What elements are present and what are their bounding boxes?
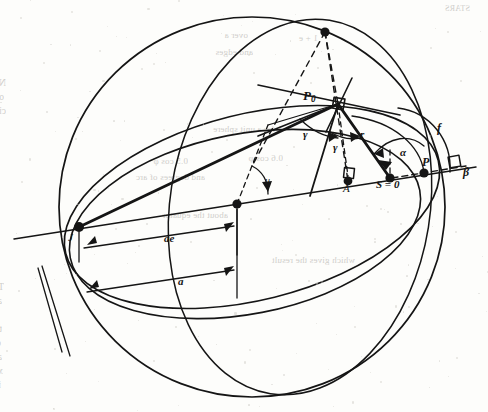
figure-label-J: J bbox=[68, 231, 73, 243]
scan-speck bbox=[248, 404, 249, 405]
scan-speck bbox=[113, 120, 115, 122]
scan-speck bbox=[308, 280, 309, 281]
label-text: β bbox=[463, 165, 469, 179]
scan-speck bbox=[102, 80, 104, 82]
scan-speck bbox=[374, 241, 376, 243]
label-text: a bbox=[178, 275, 184, 287]
figure-label-r: r bbox=[360, 128, 364, 140]
scan-speck bbox=[156, 53, 157, 54]
scan-speck bbox=[158, 192, 159, 193]
scan-speck bbox=[317, 67, 319, 69]
figure-label-P0: P0 bbox=[303, 88, 316, 104]
scan-speck bbox=[248, 54, 250, 56]
scan-speck bbox=[387, 211, 389, 213]
label-text: S = 0 bbox=[376, 178, 399, 190]
scan-speck bbox=[121, 198, 123, 200]
label-subscript: 0 bbox=[311, 94, 316, 104]
tangent-at-P0 bbox=[258, 85, 400, 115]
scan-speck bbox=[427, 283, 428, 284]
scan-speck bbox=[437, 196, 438, 197]
scan-speck bbox=[486, 311, 487, 312]
scan-speck bbox=[221, 33, 222, 34]
scan-speck bbox=[406, 275, 408, 277]
scan-speck bbox=[138, 320, 139, 321]
label-text: γ bbox=[333, 141, 338, 153]
scan-speck bbox=[35, 278, 36, 279]
scan-speck bbox=[250, 218, 252, 220]
scan-speck bbox=[332, 49, 333, 50]
scan-speck bbox=[18, 290, 20, 292]
scan-speck bbox=[352, 401, 354, 403]
scan-speck bbox=[480, 31, 481, 32]
figure-label-alpha: α bbox=[400, 146, 406, 158]
orbit-geometry-figure bbox=[0, 0, 488, 412]
scan-speck bbox=[141, 68, 143, 70]
line-center-to-P0 bbox=[237, 125, 268, 204]
scan-speck bbox=[146, 223, 148, 225]
scan-speck bbox=[30, 0, 31, 1]
scan-speck bbox=[429, 387, 430, 388]
label-text: J bbox=[68, 231, 73, 243]
scan-speck bbox=[384, 209, 385, 210]
scan-speck bbox=[93, 189, 95, 191]
scan-speck bbox=[478, 293, 480, 295]
scan-speck bbox=[324, 112, 325, 113]
scan-speck bbox=[292, 240, 293, 241]
scan-speck bbox=[290, 40, 291, 41]
scan-speck bbox=[54, 348, 56, 350]
sphere-outline bbox=[59, 17, 445, 397]
figure-label-u: u bbox=[265, 175, 270, 186]
scan-speck bbox=[439, 134, 440, 135]
scan-speck bbox=[75, 274, 76, 275]
scan-speck bbox=[126, 37, 127, 38]
figure-label-P: P bbox=[422, 155, 429, 170]
scan-speck bbox=[354, 326, 356, 328]
figure-label-gamma1: γ bbox=[303, 128, 308, 140]
point-pole bbox=[320, 27, 329, 36]
scan-speck bbox=[447, 31, 449, 33]
scan-speck bbox=[400, 223, 401, 224]
scan-speck bbox=[103, 174, 104, 175]
scan-speck bbox=[46, 111, 48, 113]
label-text: r bbox=[360, 128, 364, 140]
label-text: P bbox=[303, 88, 311, 103]
scan-speck bbox=[175, 326, 177, 328]
scan-speck bbox=[252, 21, 253, 22]
scan-speck bbox=[50, 44, 51, 45]
label-text: u bbox=[265, 175, 270, 186]
figure-label-gamma2: γ bbox=[333, 141, 338, 153]
scan-speck bbox=[64, 264, 65, 265]
label-text: γ bbox=[303, 128, 308, 140]
figure-label-a: a bbox=[178, 275, 184, 287]
dimension-a bbox=[87, 209, 237, 298]
scan-speck bbox=[370, 372, 371, 373]
great-circle-meridian bbox=[142, 0, 458, 412]
scan-speck bbox=[99, 50, 101, 52]
scan-speck bbox=[29, 158, 31, 160]
label-text: f bbox=[437, 121, 441, 135]
scan-speck bbox=[91, 248, 92, 249]
scan-speck bbox=[293, 146, 295, 148]
scan-speck bbox=[395, 305, 397, 307]
label-text: P bbox=[422, 155, 429, 169]
label-text: A bbox=[343, 182, 350, 194]
scan-speck bbox=[296, 353, 297, 354]
point-center bbox=[232, 199, 241, 208]
scanned-page: STARSover a1 + eand edgesNow we have a n… bbox=[0, 0, 488, 412]
figure-label-beta: β bbox=[463, 165, 469, 180]
scan-speck bbox=[54, 279, 55, 280]
scan-speck bbox=[216, 344, 217, 345]
label-text: α bbox=[400, 146, 406, 158]
scan-speck bbox=[70, 44, 71, 45]
scan-speck bbox=[244, 361, 246, 363]
scan-speck bbox=[223, 15, 224, 16]
scan-speck bbox=[256, 187, 258, 189]
scan-speck bbox=[234, 312, 236, 314]
point-J bbox=[74, 222, 84, 232]
scan-speck bbox=[293, 189, 294, 190]
figure-label-ae: ae bbox=[164, 232, 174, 244]
scan-speck bbox=[203, 123, 205, 125]
scan-speck bbox=[374, 238, 376, 240]
scan-speck bbox=[127, 263, 128, 264]
scan-speck bbox=[302, 204, 303, 205]
